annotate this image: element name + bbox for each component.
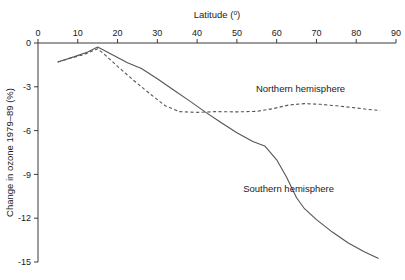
y-tick-label: 0: [26, 38, 31, 48]
x-axis-ticks: [38, 39, 396, 43]
series-label-southern-hemisphere: Southern hemisphere: [243, 183, 334, 194]
x-tick-label: 70: [311, 28, 321, 38]
series-annotation-labels: Northern hemisphereSouthern hemisphere: [243, 83, 345, 194]
x-tick-label: 10: [73, 28, 83, 38]
x-axis-tick-labels: 0102030405060708090: [35, 28, 401, 38]
y-axis-title: Change in ozone 1979–89 (%): [4, 88, 15, 217]
y-tick-label: -3: [23, 82, 31, 92]
data-series-group: [58, 47, 380, 258]
y-tick-label: -15: [18, 257, 31, 267]
x-tick-label: 30: [152, 28, 162, 38]
y-tick-label: -6: [23, 126, 31, 136]
y-axis-tick-labels: 0-3-6-9-12-15: [18, 38, 31, 267]
x-tick-label: 80: [351, 28, 361, 38]
y-axis: 0-3-6-9-12-15: [18, 38, 38, 267]
x-tick-label: 20: [113, 28, 123, 38]
x-tick-label: 40: [192, 28, 202, 38]
series-line-southern-hemisphere: [58, 47, 378, 258]
x-tick-label: 50: [232, 28, 242, 38]
x-axis: 0102030405060708090: [35, 28, 401, 43]
x-tick-label: 60: [272, 28, 282, 38]
y-tick-label: -9: [23, 170, 31, 180]
series-label-northern-hemisphere: Northern hemisphere: [256, 83, 345, 94]
ozone-latitude-chart: 0102030405060708090 0-3-6-9-12-15 Latitu…: [0, 0, 405, 280]
x-tick-label: 0: [35, 28, 40, 38]
chart-svg: 0102030405060708090 0-3-6-9-12-15 Latitu…: [0, 0, 405, 280]
y-tick-label: -12: [18, 213, 31, 223]
x-tick-label: 90: [391, 28, 401, 38]
series-line-northern-hemisphere: [58, 49, 380, 113]
y-axis-ticks: [34, 43, 38, 262]
x-axis-title: Latitude (o): [194, 9, 240, 20]
